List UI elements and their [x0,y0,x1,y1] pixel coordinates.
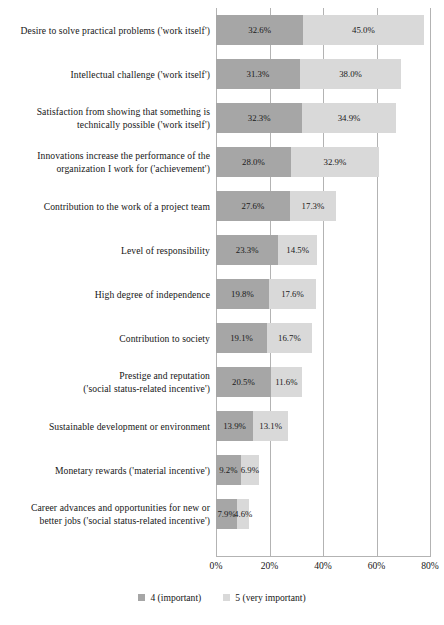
bar-row: Prestige and reputation('social status-r… [0,360,444,404]
bar-segment-very-important[interactable]: 32.9% [291,147,379,177]
category-label: Sustainable development or environment [4,404,210,448]
category-label-line: Level of responsibility [121,244,210,257]
x-tick-label: 60% [355,560,399,571]
bar-value-label: 17.3% [302,201,325,211]
bar-track: 32.6%45.0% [216,15,444,45]
bar-row: Satisfaction from showing that something… [0,96,444,140]
bar-row: Intellectual challenge ('work itself')31… [0,52,444,96]
legend-swatch-icon [138,594,145,601]
category-label: Monetary rewards ('material incentive') [4,448,210,492]
bar-value-label: 19.8% [231,289,254,299]
x-tick-label: 40% [301,560,345,571]
category-label: Level of responsibility [4,228,210,272]
bar-value-label: 27.6% [242,201,265,211]
bar-segment-very-important[interactable]: 14.5% [278,235,317,265]
category-label: Contribution to the work of a project te… [4,184,210,228]
bar-value-label: 32.3% [248,113,271,123]
plot-area: Desire to solve practical problems ('wor… [0,8,444,556]
bar-segment-very-important[interactable]: 38.0% [300,59,402,89]
bar-value-label: 9.2% [219,465,237,475]
category-label-line: Desire to solve practical problems ('wor… [21,24,210,37]
category-label: Intellectual challenge ('work itself') [4,52,210,96]
bar-segment-important[interactable]: 19.1% [216,323,267,353]
bar-segment-important[interactable]: 28.0% [216,147,291,177]
bar-value-label: 14.5% [286,245,309,255]
bar-segment-important[interactable]: 31.3% [216,59,300,89]
x-tick-label: 80% [408,560,444,571]
bar-segment-important[interactable]: 9.2% [216,455,241,485]
bar-track: 23.3%14.5% [216,235,444,265]
bar-row: Level of responsibility23.3%14.5% [0,228,444,272]
category-label-line: Career advances and opportunities for ne… [31,501,210,514]
category-label: Satisfaction from showing that something… [4,96,210,140]
bar-track: 19.8%17.6% [216,279,444,309]
bar-track: 27.6%17.3% [216,191,444,221]
bar-segment-important[interactable]: 19.8% [216,279,269,309]
bar-row: Contribution to society19.1%16.7% [0,316,444,360]
bar-track: 31.3%38.0% [216,59,444,89]
bar-value-label: 7.9% [217,509,235,519]
bar-track: 7.9%4.6% [216,499,444,529]
category-label-line: Contribution to society [119,332,210,345]
bar-value-label: 6.9% [241,465,259,475]
bar-segment-very-important[interactable]: 13.1% [253,411,288,441]
bar-value-label: 31.3% [246,69,269,79]
bar-value-label: 13.9% [223,421,246,431]
bar-track: 19.1%16.7% [216,323,444,353]
bar-segment-important[interactable]: 23.3% [216,235,278,265]
bar-segment-important[interactable]: 27.6% [216,191,290,221]
category-label-line: Intellectual challenge ('work itself') [71,68,211,81]
chart-legend: 4 (important)5 (very important) [0,592,444,603]
category-label-line: Monetary rewards ('material incentive') [55,464,210,477]
category-label-line: better jobs ('social status-related ince… [40,514,210,527]
category-label-line: Contribution to the work of a project te… [44,200,210,213]
category-label: High degree of independence [4,272,210,316]
bar-value-label: 45.0% [352,25,375,35]
bar-value-label: 23.3% [236,245,259,255]
legend-item[interactable]: 4 (important) [138,592,201,603]
bar-value-label: 32.6% [248,25,271,35]
category-label: Innovations increase the performance of … [4,140,210,184]
bar-row: Career advances and opportunities for ne… [0,492,444,536]
bar-value-label: 11.6% [275,377,297,387]
bar-row: High degree of independence19.8%17.6% [0,272,444,316]
category-label-line: Innovations increase the performance of … [37,149,210,162]
bar-value-label: 13.1% [259,421,282,431]
bar-segment-very-important[interactable]: 11.6% [271,367,302,397]
bar-row: Monetary rewards ('material incentive')9… [0,448,444,492]
bar-value-label: 28.0% [242,157,265,167]
bar-value-label: 19.1% [230,333,253,343]
category-label-line: Satisfaction from showing that something… [37,105,210,118]
category-label-line: ('social status-related incentive') [83,382,210,395]
bar-value-label: 16.7% [278,333,301,343]
bar-segment-very-important[interactable]: 34.9% [302,103,395,133]
bar-segment-very-important[interactable]: 16.7% [267,323,312,353]
bar-row: Sustainable development or environment13… [0,404,444,448]
x-axis-line [216,556,431,557]
category-label-line: organization I work for ('achievement') [56,162,210,175]
bar-segment-very-important[interactable]: 17.3% [290,191,336,221]
bar-segment-very-important[interactable]: 17.6% [269,279,316,309]
bar-row: Desire to solve practical problems ('wor… [0,8,444,52]
legend-swatch-icon [223,594,230,601]
x-tick-label: 0% [194,560,238,571]
bar-segment-very-important[interactable]: 6.9% [241,455,259,485]
bar-segment-important[interactable]: 20.5% [216,367,271,397]
bar-segment-important[interactable]: 13.9% [216,411,253,441]
bar-value-label: 4.6% [234,509,252,519]
bar-track: 28.0%32.9% [216,147,444,177]
category-label: Contribution to society [4,316,210,360]
bar-row: Contribution to the work of a project te… [0,184,444,228]
bar-segment-important[interactable]: 32.3% [216,103,302,133]
bar-value-label: 17.6% [281,289,304,299]
legend-label: 4 (important) [150,592,201,603]
bar-track: 13.9%13.1% [216,411,444,441]
legend-label: 5 (very important) [235,592,305,603]
bar-segment-important[interactable]: 32.6% [216,15,303,45]
bar-segment-very-important[interactable]: 4.6% [237,499,249,529]
category-label: Desire to solve practical problems ('wor… [4,8,210,52]
bar-segment-very-important[interactable]: 45.0% [303,15,423,45]
bar-value-label: 34.9% [338,113,361,123]
bar-value-label: 38.0% [339,69,362,79]
legend-item[interactable]: 5 (very important) [223,592,305,603]
